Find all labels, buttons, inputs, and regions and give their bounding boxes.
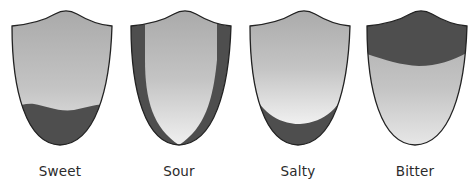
- tongue-sour: Sour: [119, 0, 239, 193]
- label-salty: Salty: [238, 163, 358, 179]
- tongue-sweet-shape: [0, 0, 120, 160]
- label-bitter: Bitter: [355, 163, 475, 179]
- tongue-bitter-shape: [355, 0, 475, 160]
- tongue-bitter: Bitter: [355, 0, 475, 193]
- salty-neutral-region: [238, 0, 358, 124]
- tongue-sour-shape: [119, 0, 239, 160]
- label-sweet: Sweet: [0, 163, 120, 179]
- tongue-salty: Salty: [238, 0, 358, 193]
- tongue-salty-shape: [238, 0, 358, 160]
- tongue-sweet: Sweet: [0, 0, 120, 193]
- sweet-taste-region: [0, 104, 120, 160]
- label-sour: Sour: [119, 163, 239, 179]
